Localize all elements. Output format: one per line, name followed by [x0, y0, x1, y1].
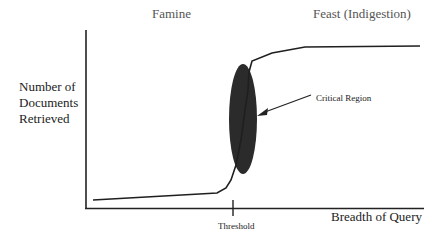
y-axis-label-line: Retrieved: [19, 111, 78, 127]
famine-label: Famine: [152, 6, 191, 22]
x-axis-label: Breadth of Query: [331, 209, 422, 225]
y-axis-label-line: Documents: [19, 95, 78, 111]
critical-arrow-line: [265, 95, 311, 112]
arrow-head-icon: [257, 108, 268, 116]
feast-label: Feast (Indigestion): [313, 6, 411, 22]
y-axis-label: Number of Documents Retrieved: [19, 79, 78, 127]
critical-region-label: Critical Region: [316, 93, 371, 103]
y-axis-label-line: Number of: [19, 79, 78, 95]
threshold-label: Threshold: [218, 221, 255, 231]
